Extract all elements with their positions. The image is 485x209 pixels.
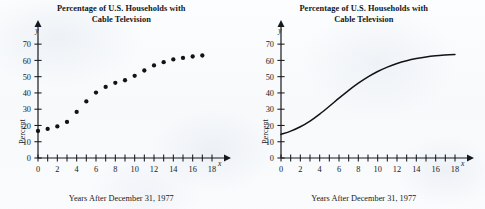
svg-text:8: 8 xyxy=(113,165,117,174)
svg-text:0: 0 xyxy=(27,154,31,163)
svg-text:70: 70 xyxy=(23,40,31,49)
curve-axes: 024681012141618010203040506070 xyxy=(265,26,467,174)
svg-text:30: 30 xyxy=(265,105,273,114)
svg-text:10: 10 xyxy=(131,165,139,174)
svg-text:6: 6 xyxy=(94,165,98,174)
svg-text:2: 2 xyxy=(298,165,302,174)
scatter-xlabel: Years After December 31, 1977 xyxy=(0,194,243,203)
svg-text:0: 0 xyxy=(36,165,40,174)
svg-text:60: 60 xyxy=(265,57,273,66)
svg-text:0: 0 xyxy=(278,165,282,174)
svg-text:20: 20 xyxy=(265,122,273,131)
svg-text:50: 50 xyxy=(265,73,273,82)
curve-y-axis-variable: y xyxy=(277,26,282,35)
svg-text:18: 18 xyxy=(450,165,458,174)
scatter-plot-svg: 024681012141618010203040506070 y x xyxy=(0,0,242,209)
svg-text:40: 40 xyxy=(265,89,273,98)
svg-text:12: 12 xyxy=(392,165,400,174)
svg-text:12: 12 xyxy=(150,165,158,174)
svg-text:2: 2 xyxy=(55,165,59,174)
svg-text:4: 4 xyxy=(75,165,80,174)
scatter-panel: Percentage of U.S. Households with Cable… xyxy=(0,0,243,209)
scatter-x-axis-variable: x xyxy=(217,159,222,168)
svg-text:16: 16 xyxy=(189,165,197,174)
curve-plot-svg: 024681012141618010203040506070 y x xyxy=(243,0,485,209)
curve-xlabel: Years After December 31, 1977 xyxy=(243,194,485,203)
svg-text:70: 70 xyxy=(265,40,273,49)
svg-text:10: 10 xyxy=(23,138,31,147)
svg-text:50: 50 xyxy=(23,73,31,82)
scatter-axes: 024681012141618010203040506070 xyxy=(23,26,225,174)
svg-text:10: 10 xyxy=(373,165,381,174)
curve-x-axis-variable: x xyxy=(460,159,465,168)
svg-text:60: 60 xyxy=(23,57,31,66)
svg-text:14: 14 xyxy=(412,165,421,174)
curve-panel: Percentage of U.S. Households with Cable… xyxy=(243,0,485,209)
svg-text:8: 8 xyxy=(356,165,360,174)
svg-text:0: 0 xyxy=(269,154,273,163)
svg-text:40: 40 xyxy=(23,89,31,98)
curve-data-line xyxy=(281,54,455,134)
scatter-y-axis-variable: y xyxy=(34,26,39,35)
svg-text:30: 30 xyxy=(23,105,31,114)
svg-text:20: 20 xyxy=(23,122,31,131)
figure-row: Percentage of U.S. Households with Cable… xyxy=(0,0,485,209)
svg-text:6: 6 xyxy=(336,165,340,174)
svg-text:4: 4 xyxy=(317,165,322,174)
svg-text:10: 10 xyxy=(265,138,273,147)
scatter-data-points xyxy=(36,53,205,133)
svg-text:18: 18 xyxy=(208,165,216,174)
svg-text:14: 14 xyxy=(169,165,178,174)
svg-text:16: 16 xyxy=(431,165,439,174)
